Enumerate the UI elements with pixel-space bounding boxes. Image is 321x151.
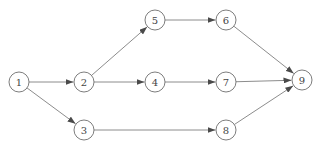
edge-8-to-9	[234, 86, 293, 125]
node-3: 3	[74, 120, 94, 140]
node-label: 9	[299, 75, 305, 86]
network-diagram: 123456789	[0, 0, 321, 151]
node-label: 3	[81, 125, 87, 136]
node-4: 4	[145, 72, 165, 92]
edge-1-to-3	[27, 88, 76, 124]
node-label: 7	[223, 77, 229, 88]
node-1: 1	[9, 72, 29, 92]
node-label: 1	[16, 77, 22, 88]
node-label: 5	[152, 15, 158, 26]
node-label: 8	[223, 125, 229, 136]
edge-7-to-9	[236, 80, 292, 81]
node-9: 9	[292, 70, 312, 90]
node-label: 4	[152, 77, 158, 88]
node-label: 2	[81, 77, 87, 88]
node-7: 7	[216, 72, 236, 92]
edge-2-to-5	[92, 27, 148, 76]
node-6: 6	[216, 10, 236, 30]
node-8: 8	[216, 120, 236, 140]
node-label: 6	[223, 15, 229, 26]
nodes-layer: 123456789	[9, 10, 312, 140]
node-2: 2	[74, 72, 94, 92]
edge-6-to-9	[234, 26, 294, 73]
node-5: 5	[145, 10, 165, 30]
